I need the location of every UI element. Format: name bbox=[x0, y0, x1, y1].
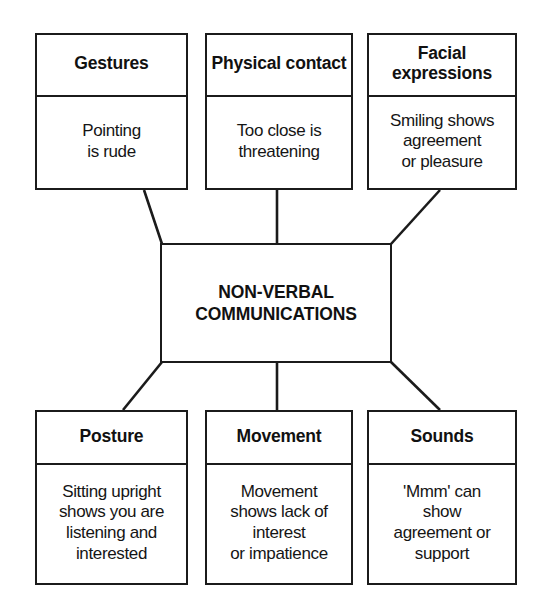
node-center-topic: NON-VERBAL COMMUNICATIONS bbox=[160, 243, 392, 363]
node-posture-header: Posture bbox=[37, 412, 186, 465]
node-physical-contact: Physical contact Too close is threatenin… bbox=[205, 33, 353, 190]
diagram-canvas: Gestures Pointing is rude Physical conta… bbox=[0, 0, 547, 615]
connector-sounds bbox=[391, 362, 440, 410]
node-sounds-body: 'Mmm' can show agreement or support bbox=[369, 465, 515, 583]
connector-facial-expressions bbox=[391, 190, 440, 244]
node-posture-body: Sitting upright shows you are listening … bbox=[37, 465, 186, 583]
node-facial-expressions-header: Facial expressions bbox=[369, 35, 515, 97]
node-facial-expressions: Facial expressions Smiling shows agreeme… bbox=[367, 33, 517, 190]
node-gestures-header: Gestures bbox=[37, 35, 186, 97]
connector-posture bbox=[123, 362, 162, 410]
node-physical-contact-body: Too close is threatening bbox=[207, 97, 351, 188]
connector-gestures bbox=[144, 190, 162, 244]
node-sounds-header: Sounds bbox=[369, 412, 515, 465]
node-movement-header: Movement bbox=[207, 412, 351, 465]
node-posture: Posture Sitting upright shows you are li… bbox=[35, 410, 188, 585]
node-movement: Movement Movement shows lack of interest… bbox=[205, 410, 353, 585]
node-movement-body: Movement shows lack of interest or impat… bbox=[207, 465, 351, 583]
node-sounds: Sounds 'Mmm' can show agreement or suppo… bbox=[367, 410, 517, 585]
node-gestures: Gestures Pointing is rude bbox=[35, 33, 188, 190]
node-gestures-body: Pointing is rude bbox=[37, 97, 186, 188]
node-physical-contact-header: Physical contact bbox=[207, 35, 351, 97]
node-facial-expressions-body: Smiling shows agreement or pleasure bbox=[369, 97, 515, 188]
